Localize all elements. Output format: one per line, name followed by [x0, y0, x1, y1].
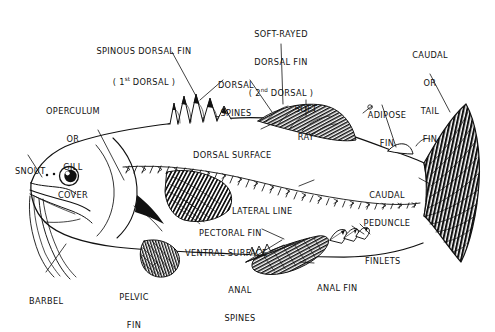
- label-line: OR: [46, 135, 100, 144]
- label-dorsal-spines: DORSAL SPINES: [218, 62, 254, 128]
- label-line: SOFT: [295, 105, 318, 114]
- label-line: ADIPOSE: [368, 111, 407, 120]
- label-caudal-or-tail-fin: CAUDAL OR TAIL FIN: [412, 32, 448, 154]
- label-line: GILL: [46, 163, 100, 172]
- label-line: DORSAL SURFACE: [193, 151, 272, 160]
- label-pelvic-fin: PELVIC FIN: [119, 274, 149, 332]
- label-line: FIN: [368, 139, 407, 148]
- label-line: ANAL: [224, 286, 255, 295]
- label-line: FIN: [119, 321, 149, 330]
- label-line: SPINES: [218, 109, 254, 118]
- label-dorsal-surface: DORSAL SURFACE: [193, 132, 272, 170]
- label-line: RAY: [295, 133, 318, 142]
- label-snout: SNOUT: [15, 148, 46, 186]
- label-line: VENTRAL SURFACE: [185, 249, 267, 258]
- label-adipose-fin: ADIPOSE FIN: [368, 92, 407, 158]
- label-line: CAUDAL: [412, 51, 448, 60]
- label-soft-ray: SOFT RAY: [295, 86, 318, 152]
- label-anal-spines: ANAL SPINES: [224, 267, 255, 332]
- label-anal-fin: ANAL FIN: [317, 265, 358, 303]
- label-line: CAUDAL: [364, 191, 411, 200]
- label-line: PELVIC: [119, 293, 149, 302]
- label-ventral-surface: VENTRAL SURFACE: [185, 230, 267, 268]
- label-caudal-peduncle: CAUDAL PEDUNCLE: [364, 172, 411, 238]
- label-line: BARBEL: [29, 297, 63, 306]
- label-line: OPERCULUM: [46, 107, 100, 116]
- label-line: ANAL FIN: [317, 284, 358, 293]
- label-line: OR: [412, 79, 448, 88]
- label-line: DORSAL: [218, 81, 254, 90]
- label-line: ( 1st DORSAL ): [96, 75, 191, 87]
- label-line: FINLETS: [365, 257, 401, 266]
- label-operculum-or-gill-cover: OPERCULUM OR GILL COVER: [46, 88, 100, 210]
- label-line: SPINES: [224, 314, 255, 323]
- label-spinous-dorsal-fin: SPINOUS DORSAL FIN ( 1st DORSAL ): [96, 28, 191, 97]
- label-barbel: BARBEL: [29, 278, 63, 316]
- label-line: TAIL: [412, 107, 448, 116]
- label-line: DORSAL FIN: [249, 58, 314, 67]
- label-line: SPINOUS DORSAL FIN: [96, 47, 191, 56]
- label-line: SOFT-RAYED: [249, 30, 314, 39]
- label-finlets: FINLETS: [365, 238, 401, 276]
- label-line: SNOUT: [15, 167, 46, 176]
- label-line: PEDUNCLE: [364, 219, 411, 228]
- label-line: COVER: [46, 191, 100, 200]
- label-line: FIN: [412, 135, 448, 144]
